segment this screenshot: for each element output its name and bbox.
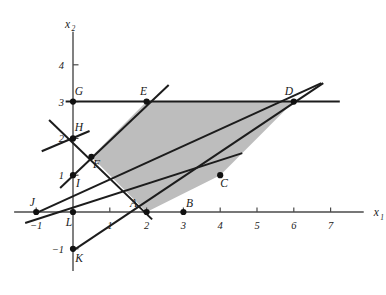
x-tick-label: 2 (144, 220, 150, 231)
x-axis-label-subscript: 1 (380, 213, 384, 222)
linear-programming-figure: ABCDEFGHIJKL −11234567−11234 x1x2 (0, 0, 386, 295)
point-label-K: K (74, 252, 84, 264)
shaded-feasible-region (91, 102, 293, 212)
point-D (291, 99, 297, 105)
point-A (144, 209, 150, 215)
feasible-region-group (91, 102, 293, 212)
point-label-J: J (30, 196, 36, 208)
plot-canvas: ABCDEFGHIJKL −11234567−11234 x1x2 (0, 0, 386, 295)
point-B (180, 209, 186, 215)
point-label-A: A (129, 197, 138, 209)
point-label-L: L (65, 216, 72, 228)
point-G (70, 99, 76, 105)
point-label-B: B (186, 197, 193, 209)
point-label-H: H (74, 121, 84, 133)
x-tick-label: 6 (291, 220, 297, 231)
point-label-I: I (75, 177, 81, 189)
point-label-E: E (139, 85, 147, 97)
y-axis-label-subscript: 2 (72, 24, 76, 33)
x-tick-label: −1 (30, 220, 42, 231)
x-tick-label: 4 (218, 220, 224, 231)
point-label-G: G (75, 85, 84, 97)
y-axis-label: x (64, 18, 71, 30)
x-tick-label: 7 (328, 220, 334, 231)
x-tick-label: 5 (254, 220, 259, 231)
line-segment-upper-left-at-H (42, 131, 90, 151)
y-tick-label: 1 (59, 170, 64, 181)
y-tick-label: 3 (58, 97, 64, 108)
point-E (144, 99, 150, 105)
point-H (70, 135, 76, 141)
x-tick-label: 3 (180, 220, 186, 231)
y-tick-label: 4 (59, 60, 65, 71)
y-tick-label: −1 (52, 244, 64, 255)
point-label-D: D (284, 85, 294, 97)
x-tick-label: 1 (107, 220, 112, 231)
point-J (33, 209, 39, 215)
point-label-C: C (220, 177, 228, 189)
point-L (70, 209, 76, 215)
point-label-F: F (92, 158, 101, 170)
x-axis-label: x (373, 206, 380, 218)
y-tick-label: 2 (59, 133, 65, 144)
